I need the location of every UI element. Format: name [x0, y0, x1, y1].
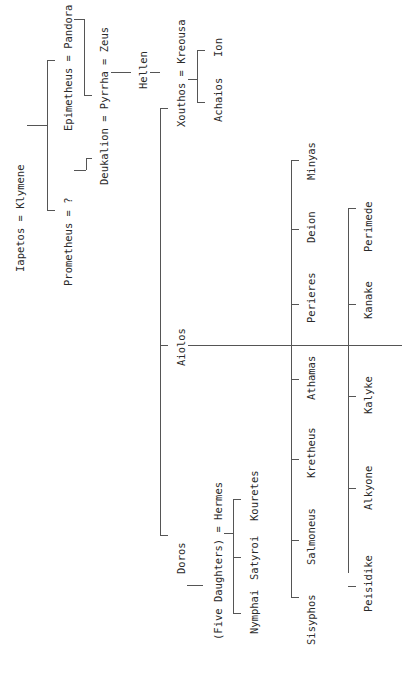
- connector-xouthos-children: [188, 79, 197, 80]
- connector-kretheus: [291, 459, 299, 460]
- node-satyroi: Satyroi: [248, 536, 260, 580]
- connector-achaios: [197, 102, 205, 103]
- node-doros: Doros: [175, 542, 187, 574]
- connector-perieres: [291, 304, 299, 305]
- connector-doros-child: [187, 585, 203, 586]
- connector-athamas: [291, 379, 299, 380]
- node-aiolos: Aiolos: [175, 328, 187, 366]
- node-hellen: Hellen: [137, 51, 149, 89]
- connector-perimede: [348, 208, 356, 209]
- node-alkyone: Alkyone: [362, 466, 374, 510]
- connector-hellen-children: [160, 108, 161, 535]
- connector-kouretes: [233, 499, 241, 500]
- connector-deukalion-h: [86, 158, 92, 159]
- connector-nymphai-kouretes: [233, 499, 234, 613]
- node-xouthos-kreousa: Xouthos = Kreousa: [175, 20, 187, 127]
- connector-iapetos-children: [47, 60, 48, 210]
- connector-kalyke: [348, 396, 356, 397]
- connector-pyrrha-h: [84, 95, 92, 96]
- connector-xouthos: [160, 108, 168, 109]
- connector-hellen: [150, 72, 160, 73]
- node-perimede: Perimede: [362, 201, 374, 252]
- connector-prometheus-child: [74, 170, 86, 171]
- connector-aiolos-children: [188, 345, 402, 346]
- node-salmoneus: Salmoneus: [305, 508, 317, 565]
- connector-aiolos-left: [160, 345, 168, 346]
- connector-alkyone: [348, 488, 356, 489]
- connector-achaios-ion: [197, 50, 198, 102]
- node-five-daughters-hermes: (Five Daughters) = Hermes: [212, 482, 224, 640]
- node-kanake: Kanake: [362, 281, 374, 319]
- node-sisyphos: Sisyphos: [305, 594, 317, 645]
- connector-nymphai: [233, 613, 241, 614]
- node-iapetos-klymene: Iapetos = Klymene: [14, 165, 26, 272]
- node-prometheus: Prometheus = ?: [62, 197, 74, 286]
- connector-satyroi: [233, 557, 241, 558]
- connector-hermes-children: [224, 533, 233, 534]
- connector-salmoneus: [291, 540, 299, 541]
- node-deukalion-pyrrha-zeus: Deukalion = Pyrrha = Zeus: [98, 27, 110, 185]
- connector-ion: [197, 50, 205, 51]
- node-nymphai: Nymphai: [248, 590, 260, 634]
- node-peisidike: Peisidike: [362, 555, 374, 612]
- connector-peisidike: [348, 586, 356, 587]
- node-deion: Deion: [305, 211, 317, 243]
- node-kalyke: Kalyke: [362, 376, 374, 414]
- node-kouretes: Kouretes: [248, 470, 260, 521]
- connector-doros: [160, 535, 168, 536]
- node-achaios: Achaios: [212, 78, 224, 122]
- connector-deion: [291, 229, 299, 230]
- connector-deukalion-hellen: [111, 72, 131, 73]
- connector-iapetos: [27, 125, 47, 126]
- connector-prometheus: [47, 210, 55, 211]
- node-perieres: Perieres: [305, 272, 317, 323]
- node-kretheus: Kretheus: [305, 427, 317, 478]
- connector-aiolos-daughters-join: [348, 345, 349, 346]
- connector-epimetheus: [47, 60, 55, 61]
- connector-pyrrha-v: [84, 19, 85, 95]
- connector-minyas: [291, 160, 299, 161]
- connector-epimetheus-child: [74, 19, 84, 20]
- connector-aiolos-daughters: [348, 208, 349, 573]
- node-athamas: Athamas: [305, 356, 317, 400]
- node-minyas: Minyas: [305, 142, 317, 180]
- connector-sisyphos: [291, 597, 299, 598]
- connector-kanake: [348, 304, 356, 305]
- node-epimetheus-pandora: Epimetheus = Pandora: [62, 5, 74, 131]
- node-ion: Ion: [212, 38, 224, 57]
- connector-deukalion-v: [86, 158, 87, 170]
